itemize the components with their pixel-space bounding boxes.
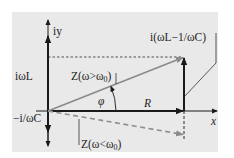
phase-angle-label: φ	[98, 95, 105, 108]
inductive-reactance-label: iωL	[15, 70, 33, 82]
impedance-diagram: iy x iωL −i/ωC Z(ω>ω0) Z(ω<ω0) R φ i(ωL−…	[0, 0, 234, 158]
resistance-label: R	[143, 97, 151, 109]
real-axis-label: x	[210, 115, 217, 127]
imaginary-axis-label: iy	[53, 25, 62, 38]
net-reactance-label: i(ωL−1/ωC)	[150, 31, 206, 44]
capacitive-reactance-label: −i/ωC	[13, 112, 41, 124]
